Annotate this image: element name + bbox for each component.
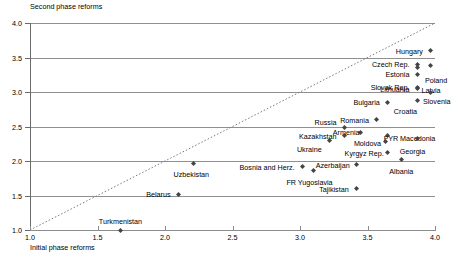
- point-label: Czech Rep.: [372, 60, 410, 69]
- x-tick-label: 3.0: [287, 233, 313, 242]
- gridline-y: [30, 127, 435, 128]
- data-point: [385, 150, 390, 155]
- point-label: Slovenia: [423, 97, 451, 106]
- point-label: Hungary: [396, 46, 423, 55]
- point-label: Uzbekistan: [174, 170, 210, 179]
- point-label: Belarus: [146, 189, 170, 198]
- data-point: [342, 133, 347, 138]
- y-tick-label: 2.0: [0, 157, 22, 166]
- gridline-y: [30, 58, 435, 59]
- y-tick-mark: [25, 23, 30, 24]
- data-point: [118, 228, 123, 233]
- y-axis-title: Second phase reforms: [30, 2, 102, 11]
- x-tick-label: 2.0: [152, 233, 178, 242]
- data-point: [415, 86, 420, 91]
- x-tick-mark: [233, 226, 234, 231]
- gridline-y: [30, 196, 435, 197]
- x-tick-mark: [165, 226, 166, 231]
- data-point: [354, 162, 359, 167]
- x-tick-label: 4.0: [422, 233, 448, 242]
- point-label: Russia: [315, 117, 337, 126]
- point-label: Albania: [389, 166, 413, 175]
- gridline-y: [30, 23, 435, 24]
- data-point: [374, 117, 379, 122]
- data-point: [428, 48, 433, 53]
- point-label: Croatia: [394, 107, 417, 116]
- x-tick-mark: [98, 226, 99, 231]
- data-point: [415, 65, 420, 70]
- x-tick-label: 1.0: [17, 233, 43, 242]
- point-label: Georgia: [400, 146, 426, 155]
- x-tick-mark: [300, 226, 301, 231]
- x-axis-title: Initial phase reforms: [30, 243, 95, 252]
- data-point: [383, 139, 388, 144]
- y-tick-label: 3.5: [0, 54, 22, 63]
- y-tick-label: 3.0: [0, 88, 22, 97]
- data-point: [327, 138, 332, 143]
- point-label: Turkmenistan: [99, 217, 142, 226]
- point-label: Kyrgyz Rep.: [345, 149, 384, 158]
- plot-area: [30, 23, 435, 230]
- point-label: Azerbaijan: [316, 161, 350, 170]
- data-point: [428, 90, 433, 95]
- point-label: Bulgaria: [353, 98, 379, 107]
- y-tick-label: 4.0: [0, 19, 22, 28]
- data-point: [311, 168, 316, 173]
- x-tick-mark: [435, 226, 436, 231]
- y-tick-mark: [25, 127, 30, 128]
- data-point: [354, 186, 359, 191]
- scatter-chart: Second phase reforms Initial phase refor…: [0, 0, 453, 266]
- point-label: Bosnia and Herz.: [240, 162, 295, 171]
- data-point: [428, 63, 433, 68]
- x-tick-label: 1.5: [85, 233, 111, 242]
- y-tick-mark: [25, 161, 30, 162]
- x-tick-label: 2.5: [220, 233, 246, 242]
- point-label: Moldova: [354, 138, 381, 147]
- x-tick-label: 3.5: [355, 233, 381, 242]
- gridline-y: [30, 92, 435, 93]
- point-label: Poland: [425, 75, 447, 84]
- data-point: [415, 136, 420, 141]
- y-tick-mark: [25, 196, 30, 197]
- data-point: [415, 98, 420, 103]
- y-tick-mark: [25, 58, 30, 59]
- point-label: Ukraine: [297, 145, 322, 154]
- gridline-y: [30, 161, 435, 162]
- point-label: Estonia: [385, 69, 409, 78]
- data-point: [399, 157, 404, 162]
- data-point: [385, 100, 390, 105]
- data-point: [415, 72, 420, 77]
- y-tick-mark: [25, 92, 30, 93]
- point-label: FYR Macedonia: [384, 134, 436, 143]
- point-label: Tajikistan: [319, 184, 349, 193]
- y-tick-label: 2.5: [0, 123, 22, 132]
- x-tick-mark: [30, 226, 31, 231]
- point-label: Slovak Rep.: [371, 83, 410, 92]
- point-label: Romania: [340, 115, 369, 124]
- data-point: [191, 161, 196, 166]
- y-tick-label: 1.5: [0, 192, 22, 201]
- data-point: [176, 192, 181, 197]
- x-tick-mark: [368, 226, 369, 231]
- data-point: [300, 164, 305, 169]
